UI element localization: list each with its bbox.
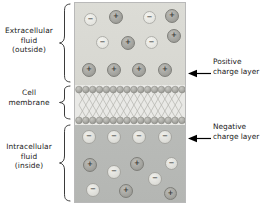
ion-charge-glyph: − bbox=[162, 133, 168, 140]
extracellular-positive-ion: + bbox=[132, 63, 146, 77]
extracellular-negative-ion: − bbox=[84, 13, 97, 26]
ion-charge-glyph: − bbox=[88, 16, 94, 23]
zone-intracellular-fluid: −−−−+−+−−−++ bbox=[75, 125, 185, 203]
ion-charge-glyph: + bbox=[169, 12, 175, 19]
arrow-negative-charge-layer bbox=[188, 128, 212, 147]
intracellular-negative-ion: − bbox=[82, 130, 96, 144]
ion-charge-glyph: − bbox=[169, 160, 175, 167]
extracellular-negative-ion: − bbox=[96, 36, 109, 49]
ion-charge-glyph: + bbox=[162, 66, 168, 73]
intracellular-positive-ion: + bbox=[164, 187, 177, 200]
ion-charge-glyph: − bbox=[111, 133, 117, 140]
ion-charge-glyph: + bbox=[171, 32, 177, 39]
ion-charge-glyph: − bbox=[100, 39, 106, 46]
ion-charge-glyph: − bbox=[90, 186, 96, 193]
intracellular-negative-ion: − bbox=[148, 172, 162, 186]
ion-charge-glyph: + bbox=[111, 66, 117, 73]
ion-charge-glyph: + bbox=[168, 190, 174, 197]
ion-charge-glyph: − bbox=[111, 168, 117, 175]
intracellular-negative-ion: − bbox=[165, 157, 178, 170]
brace-membrane bbox=[58, 85, 71, 120]
cell-membrane-diagram: −+−+−+−+++++ bbox=[74, 2, 186, 203]
intracellular-positive-ion: + bbox=[83, 158, 97, 172]
intracellular-negative-ion: − bbox=[107, 165, 121, 179]
extracellular-positive-ion: + bbox=[121, 36, 135, 50]
intracellular-negative-ion: − bbox=[86, 183, 100, 197]
intracellular-positive-ion: + bbox=[119, 184, 133, 198]
extracellular-positive-ion: + bbox=[165, 9, 179, 23]
phospholipid-bilayer-icon bbox=[75, 85, 185, 125]
extracellular-positive-ion: + bbox=[82, 63, 96, 77]
ion-charge-glyph: + bbox=[123, 187, 129, 194]
label-cell-membrane: Cell membrane bbox=[2, 88, 56, 107]
extracellular-negative-ion: − bbox=[145, 36, 158, 49]
label-extracellular-fluid: Extracellular fluid (outside) bbox=[2, 26, 56, 55]
callout-positive-charge-layer: Positive charge layer bbox=[213, 57, 261, 76]
ion-charge-glyph: − bbox=[86, 133, 92, 140]
label-intracellular-fluid: Intracellular fluid (inside) bbox=[2, 142, 56, 171]
ion-charge-glyph: + bbox=[87, 161, 93, 168]
arrow-positive-charge-layer bbox=[188, 63, 212, 82]
intracellular-negative-ion: − bbox=[132, 130, 146, 144]
extracellular-positive-ion: + bbox=[158, 63, 172, 77]
extracellular-positive-ion: + bbox=[167, 29, 181, 43]
zone-cell-membrane bbox=[75, 85, 185, 125]
extracellular-positive-ion: + bbox=[107, 63, 121, 77]
ion-charge-glyph: − bbox=[147, 14, 153, 21]
ion-charge-glyph: + bbox=[125, 39, 131, 46]
extracellular-positive-ion: + bbox=[109, 10, 123, 24]
intracellular-negative-ion: − bbox=[158, 130, 172, 144]
extracellular-negative-ion: − bbox=[143, 11, 156, 24]
figure-canvas: Extracellular fluid (outside) Cell membr… bbox=[0, 0, 263, 205]
ion-charge-glyph: − bbox=[149, 39, 155, 46]
ion-charge-glyph: − bbox=[152, 175, 158, 182]
brace-extracellular bbox=[58, 3, 71, 83]
ion-charge-glyph: + bbox=[136, 66, 142, 73]
intracellular-negative-ion: − bbox=[107, 130, 121, 144]
ion-charge-glyph: + bbox=[134, 160, 140, 167]
brace-intracellular bbox=[58, 124, 71, 202]
ion-charge-glyph: + bbox=[86, 66, 92, 73]
ion-charge-glyph: − bbox=[136, 133, 142, 140]
intracellular-positive-ion: + bbox=[130, 157, 144, 171]
zone-extracellular-fluid: −+−+−+−+++++ bbox=[75, 3, 185, 85]
ion-charge-glyph: + bbox=[113, 13, 119, 20]
callout-negative-charge-layer: Negative charge layer bbox=[213, 122, 261, 141]
